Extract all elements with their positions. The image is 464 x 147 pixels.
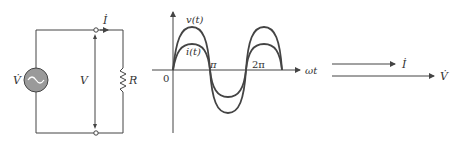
- phasor-diagram: İ V̇: [332, 57, 449, 83]
- source-label: V̇: [13, 74, 22, 87]
- figure: V̇ V İ R v(t) i(t) 0 π 2π ωt İ V̇: [0, 0, 464, 147]
- v-label: v(t): [186, 14, 204, 25]
- voltage-label: V: [80, 74, 89, 87]
- x-axis-label: ωt: [305, 65, 318, 76]
- circuit: V̇ V İ R: [13, 13, 137, 135]
- figure-canvas: V̇ V İ R v(t) i(t) 0 π 2π ωt İ V̇: [0, 0, 464, 147]
- two-pi-label: 2π: [252, 59, 265, 70]
- waveform-plot: v(t) i(t) 0 π 2π ωt: [152, 12, 318, 133]
- i-label: i(t): [186, 46, 201, 57]
- resistor-label: R: [128, 74, 137, 87]
- resistor-icon: [120, 68, 126, 92]
- terminal-top: [94, 28, 98, 32]
- origin-label: 0: [163, 73, 169, 84]
- phasor-current-label: İ: [401, 57, 407, 71]
- terminal-bottom: [94, 131, 98, 135]
- pi-label: π: [209, 59, 217, 70]
- current-label: İ: [102, 13, 108, 27]
- phasor-voltage-label: V̇: [440, 70, 449, 83]
